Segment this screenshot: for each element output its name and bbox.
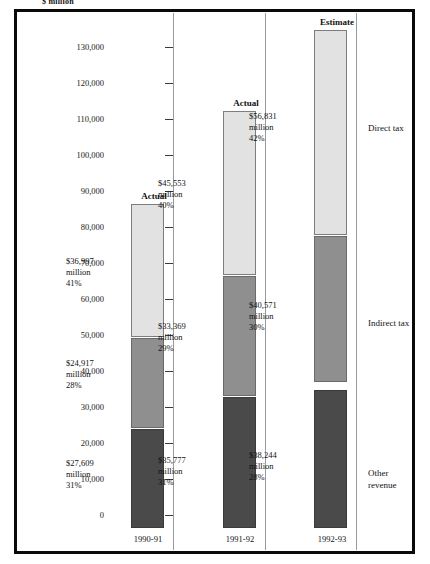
value-label-direct-tax-1992-93: $56,831 million 42% (249, 111, 277, 144)
category-label-1990-91: 1990-91 (117, 534, 179, 544)
value-label-indirect-tax-1992-93: $40,571 million 30% (249, 300, 277, 333)
value-percent: 28% (66, 380, 94, 391)
value-label-direct-tax-1991-92: $45,553 million 40% (158, 178, 186, 211)
y-tick-label: 0 (24, 510, 104, 520)
y-tick (165, 407, 173, 408)
bar-segment-direct-tax-1990-91[interactable] (131, 204, 164, 337)
value-unit: million (158, 466, 186, 477)
value-label-direct-tax-1990-91: $36,997 million 41% (66, 256, 94, 289)
y-tick-label: 130,000 (24, 42, 104, 52)
y-tick (165, 263, 173, 264)
y-tick (165, 119, 173, 120)
bar-segment-indirect-tax-1992-93[interactable] (314, 236, 347, 382)
value-unit: million (158, 332, 186, 343)
value-label-other-revenue-1991-92: $35,777 million 31% (158, 455, 186, 488)
chart-title: $ million (42, 0, 74, 6)
value-percent: 41% (66, 278, 94, 289)
value-unit: million (66, 369, 94, 380)
value-percent: 40% (158, 200, 186, 211)
chart-frame: 130,000 120,000 110,000 100,000 90,000 8… (14, 9, 415, 554)
legend-item-indirect-tax: Indirect tax (368, 318, 409, 330)
y-tick-label: 30,000 (24, 402, 104, 412)
y-tick-label: 100,000 (24, 150, 104, 160)
bar-header-1992-93: Estimate (297, 17, 377, 27)
y-tick (165, 83, 173, 84)
y-tick-label: 50,000 (24, 330, 104, 340)
legend-item-direct-tax: Direct tax (368, 123, 404, 135)
y-tick-label: 80,000 (24, 222, 104, 232)
value-amount: $27,609 (66, 458, 94, 469)
value-amount: $33,369 (158, 321, 186, 332)
y-tick (165, 47, 173, 48)
value-amount: $36,997 (66, 256, 94, 267)
category-label-1991-92: 1991-92 (209, 534, 271, 544)
y-tick-label: 60,000 (24, 294, 104, 304)
value-label-indirect-tax-1991-92: $33,369 million 29% (158, 321, 186, 354)
y-tick-label: 120,000 (24, 78, 104, 88)
value-unit: million (158, 189, 186, 200)
bar-segment-direct-tax-1992-93[interactable] (314, 30, 347, 235)
chart-page: $ million (0, 0, 430, 564)
y-tick (165, 515, 173, 516)
bar-header-1991-92: Actual (206, 98, 286, 108)
value-amount: $45,553 (158, 178, 186, 189)
bar-segment-indirect-tax-1991-92[interactable] (223, 276, 256, 396)
value-percent: 28% (249, 472, 277, 483)
y-tick (165, 443, 173, 444)
value-amount: $35,777 (158, 455, 186, 466)
value-unit: million (249, 311, 277, 322)
y-tick-label: 90,000 (24, 186, 104, 196)
value-amount: $56,831 (249, 111, 277, 122)
legend-other-line2: revenue (368, 480, 396, 492)
value-unit: million (66, 469, 94, 480)
value-unit: million (249, 122, 277, 133)
y-tick-label: 110,000 (24, 114, 104, 124)
bar-segment-other-revenue-1992-93[interactable] (314, 390, 347, 528)
chart-frame-inner: 130,000 120,000 110,000 100,000 90,000 8… (17, 12, 412, 551)
value-percent: 29% (158, 343, 186, 354)
y-tick (165, 371, 173, 372)
value-amount: $38,244 (249, 450, 277, 461)
value-label-other-revenue-1990-91: $27,609 million 31% (66, 458, 94, 491)
y-tick (165, 299, 173, 300)
value-amount: $24,917 (66, 358, 94, 369)
legend-other-line1: Other (368, 468, 396, 480)
y-tick (165, 227, 173, 228)
value-label-indirect-tax-1990-91: $24,917 million 28% (66, 358, 94, 391)
value-percent: 30% (249, 322, 277, 333)
value-label-other-revenue-1992-93: $38,244 million 28% (249, 450, 277, 483)
y-tick (165, 155, 173, 156)
legend-item-other-revenue: Other revenue (368, 468, 396, 491)
value-percent: 31% (66, 480, 94, 491)
value-unit: million (66, 267, 94, 278)
category-label-1992-93: 1992-93 (301, 534, 363, 544)
value-amount: $40,571 (249, 300, 277, 311)
y-tick-label: 20,000 (24, 438, 104, 448)
value-unit: million (249, 461, 277, 472)
value-percent: 42% (249, 133, 277, 144)
value-percent: 31% (158, 477, 186, 488)
